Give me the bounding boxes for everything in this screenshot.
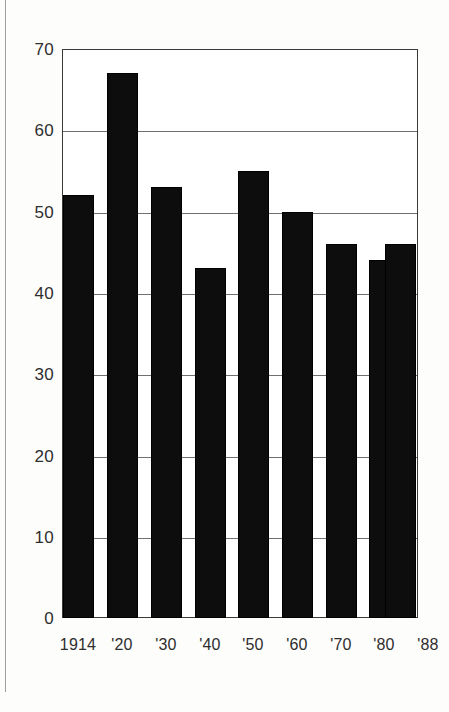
bar-chart-figure: 70 60 50 40 30 20 10 0 1914 '20 '30 '40 … — [0, 0, 449, 712]
y-axis: 70 60 50 40 30 20 10 0 — [0, 0, 56, 712]
bar-1920 — [107, 73, 138, 618]
x-axis: 1914 '20 '30 '40 '50 '60 '70 '80 '88 — [62, 636, 418, 662]
bar-1930 — [151, 187, 182, 618]
bar-1988 — [385, 244, 416, 618]
y-tick-label: 60 — [0, 121, 54, 141]
y-tick-label: 30 — [0, 365, 54, 385]
y-tick-label: 10 — [0, 528, 54, 548]
bar-1950 — [238, 171, 269, 618]
bar-1914 — [63, 195, 94, 618]
y-tick-label: 40 — [0, 284, 54, 304]
y-tick-label: 70 — [0, 40, 54, 60]
bar-1970 — [326, 244, 357, 618]
bar-1960 — [282, 212, 313, 618]
y-tick-label: 0 — [0, 609, 54, 629]
x-tick-label: '88 — [398, 636, 449, 654]
bar-1940 — [195, 268, 226, 618]
bars-layer — [62, 49, 418, 618]
y-tick-label: 50 — [0, 203, 54, 223]
y-tick-label: 20 — [0, 447, 54, 467]
